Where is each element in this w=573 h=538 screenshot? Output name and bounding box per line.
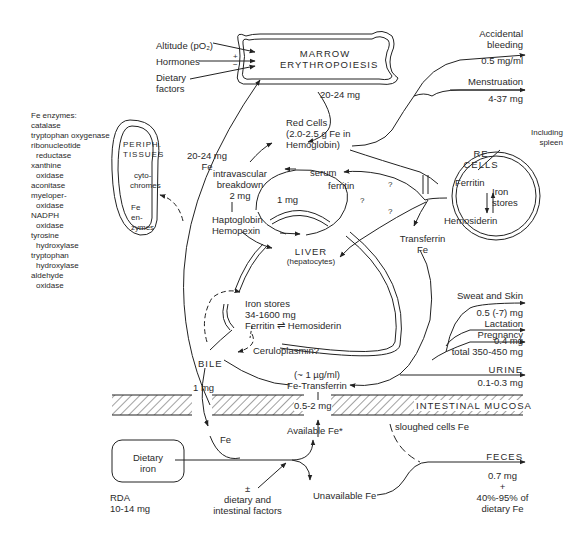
loss-value: 0.5 mg/ml <box>440 55 523 66</box>
to-marrow-line1: 20-24 mg <box>182 150 232 161</box>
bile: BILE <box>198 358 223 369</box>
intravascular-line2: breakdown <box>210 179 270 190</box>
sign-minus: − <box>233 60 238 70</box>
cytochromes: cyto- chromes <box>130 171 161 191</box>
regulator-hormones: Hormones <box>156 56 200 67</box>
red-cells-line1: Red Cells <box>286 117 350 128</box>
intravascular-line1: intravascular <box>210 168 270 179</box>
loss-name: Pregnancy <box>420 329 523 340</box>
enzyme-item: NADPH <box>31 211 110 221</box>
transferrin-line2: Fe <box>395 244 450 255</box>
enzyme-item: hydroxylase <box>31 261 110 271</box>
bile-amount: 1 mg <box>193 382 214 393</box>
marrow-line2: ERYTHROPOIESIS <box>280 59 370 70</box>
marrow-output: 20-24 mg <box>320 89 360 100</box>
iron-stores: Iron stores 34-1600 mg Ferritin ⇌ Hemosi… <box>245 298 341 331</box>
re-line1: RE <box>456 148 506 159</box>
dietary-iron-line2: iron <box>112 463 184 474</box>
loss-sweat-skin: Sweat and Skin 0.5 (-7) mg <box>420 290 523 318</box>
fe-enzymes-title: Fe enzymes: <box>31 111 110 121</box>
enzyme-item: catalase <box>31 121 110 131</box>
fe-transferrin: (~ 1 µg/ml) Fe-Transferrin <box>282 369 352 391</box>
loss-menstruation: Menstruation 4-37 mg <box>420 76 523 104</box>
loss-value: total 350-450 mg <box>420 346 523 357</box>
fe-enzymes-periph: Fe en- zymes <box>131 203 154 233</box>
loss-name: Menstruation <box>420 76 523 87</box>
loss-value: 0.5 (-7) mg <box>420 307 523 318</box>
regulator-altitude: Altitude (pO₂) <box>156 40 213 51</box>
available-fe: Available Fe* <box>287 425 343 436</box>
ferritin-label: ferritin <box>328 180 354 191</box>
intravascular-line3: 2 mg <box>210 190 270 201</box>
periph-tissues: PERIPH. TISSUES <box>123 140 164 160</box>
rda: RDA 10-14 mg <box>110 492 150 514</box>
fe-line2: en- <box>131 213 154 223</box>
unavailable-fe: Unavailable Fe <box>313 490 376 501</box>
serum-label: serum <box>310 167 336 178</box>
haptoglobin-hemopexin: Haptoglobin Hemopexin <box>212 214 263 236</box>
iron-stores-line2: 34-1600 mg <box>245 309 341 320</box>
loss-name: Sweat and Skin <box>420 290 523 301</box>
factors-sign: ± <box>210 483 285 494</box>
liver: LIVER (hepatocytes) <box>278 246 344 267</box>
re-iron-line1: Iron <box>492 186 518 197</box>
enzyme-item: oxidase <box>31 221 110 231</box>
enzyme-item: tryptophan <box>31 251 110 261</box>
regulator-dietary-line2: factors <box>156 83 186 94</box>
loss-name: Lactation <box>420 318 523 329</box>
one-mg-label: 1 mg <box>277 194 298 205</box>
loss-name2: bleeding <box>440 39 523 50</box>
ceruloplasmin: Ceruloplasmin? <box>253 345 319 356</box>
loss-urine: URINE 0.1-0.3 mg <box>420 364 523 388</box>
feces-line2: + <box>465 481 540 492</box>
re-line2: CELLS <box>456 159 506 170</box>
enzyme-item: xanthine <box>31 161 110 171</box>
intestinal-mucosa: INTESTINAL MUCOSA <box>414 400 534 411</box>
re-hemosiderin: Hemosiderin <box>444 215 497 226</box>
re-cells: RE CELLS <box>456 148 506 170</box>
loss-feces-name: FECES <box>450 451 523 462</box>
including-line2: spleen <box>508 138 563 148</box>
dietary-iron: Dietary iron <box>112 452 184 474</box>
fe-line3: zymes <box>131 223 154 233</box>
enzyme-item: tryptophan oxygenase <box>31 131 110 141</box>
rda-line1: RDA <box>110 492 150 503</box>
periph-line1: PERIPH. <box>123 140 164 150</box>
feces-line4: dietary Fe <box>465 503 540 514</box>
iron-stores-line1: Iron stores <box>245 298 341 309</box>
transferrin-fe: Transferrin Fe <box>395 233 450 255</box>
fe-line1: Fe <box>131 203 154 213</box>
re-iron-line2: stores <box>492 197 518 208</box>
feces-line3: 40%-95% of <box>465 492 540 503</box>
loss-name: Accidental <box>440 28 523 39</box>
mucosa-left <box>112 395 192 415</box>
cyto-line1: cyto- <box>130 171 161 181</box>
enzyme-item: oxidase <box>31 171 110 181</box>
fe-transferrin-line2: Fe-Transferrin <box>282 380 352 391</box>
question-mark-1: ? <box>360 196 364 206</box>
red-cells-line2: (2.0-2.5 g Fe in <box>286 128 350 139</box>
regulator-dietary-line1: Dietary <box>156 72 186 83</box>
loss-value: 0.1-0.3 mg <box>420 377 523 388</box>
transferrin-line1: Transferrin <box>395 233 450 244</box>
fe-transferrin-line1: (~ 1 µg/ml) <box>282 369 352 380</box>
intravascular-breakdown: intravascular breakdown 2 mg <box>210 168 270 201</box>
rda-line2: 10-14 mg <box>110 503 150 514</box>
enzyme-item: tyrosine <box>31 231 110 241</box>
enzyme-item: oxidase <box>31 281 110 291</box>
mucosa-right <box>212 395 304 415</box>
haptoglobin: Haptoglobin <box>212 214 263 225</box>
loss-accidental-bleeding: Accidental bleeding 0.5 mg/ml <box>440 28 523 66</box>
red-cells: Red Cells (2.0-2.5 g Fe in Hemoglobin) <box>286 117 350 150</box>
re-iron-stores: Iron stores <box>492 186 518 208</box>
loss-feces-value: 0.7 mg + 40%-95% of dietary Fe <box>465 470 540 514</box>
marrow-line1: MARROW <box>280 48 370 59</box>
factors-line1: dietary and <box>210 494 285 505</box>
enzyme-item: aconitase <box>31 181 110 191</box>
including-line1: Including <box>508 128 563 138</box>
dietary-iron-line1: Dietary <box>112 452 184 463</box>
loss-value: 4-37 mg <box>420 93 523 104</box>
enzyme-item: myeloper- <box>31 191 110 201</box>
marrow-erythropoiesis: MARROW ERYTHROPOIESIS <box>280 48 370 70</box>
question-mark-3: ? <box>388 207 392 217</box>
